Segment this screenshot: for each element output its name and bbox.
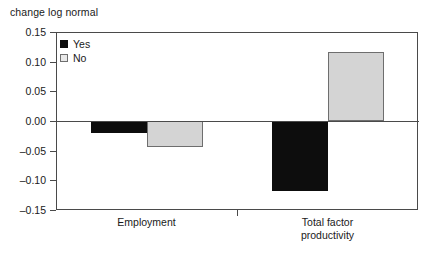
y-tick xyxy=(50,91,56,92)
y-tick xyxy=(50,210,56,211)
x-category-label-line: Employment xyxy=(56,216,237,229)
legend-swatch-yes xyxy=(60,40,68,48)
x-category-label-line: productivity xyxy=(237,229,418,242)
bar-yes xyxy=(272,121,328,191)
y-tick-label-text: 0.00 xyxy=(4,116,46,126)
y-tick xyxy=(50,32,56,33)
bar-chart: change log normal 0.150.100.050.00–0.05–… xyxy=(0,0,431,256)
x-category-label: Employment xyxy=(56,216,237,229)
legend-label-yes: Yes xyxy=(73,39,90,49)
legend-item-no: No xyxy=(60,52,90,64)
y-axis-title: change log normal xyxy=(10,6,98,18)
x-category-label-line: Total factor xyxy=(237,216,418,229)
y-tick-label-text: 0.05 xyxy=(4,86,46,96)
y-tick xyxy=(50,151,56,152)
y-tick xyxy=(50,62,56,63)
legend: Yes No xyxy=(60,38,90,66)
legend-item-yes: Yes xyxy=(60,38,90,50)
y-tick-label-text: 0.10 xyxy=(4,57,46,67)
legend-swatch-no xyxy=(60,54,68,62)
bar-no xyxy=(147,121,203,147)
legend-label-no: No xyxy=(73,53,86,63)
y-tick-label-text: –0.15 xyxy=(4,205,46,215)
bar-no xyxy=(328,52,384,121)
y-tick-label-text: –0.05 xyxy=(4,146,46,156)
bar-yes xyxy=(91,121,147,133)
x-category-label: Total factorproductivity xyxy=(237,216,418,241)
y-tick-label-text: 0.15 xyxy=(4,27,46,37)
y-tick-label-text: –0.10 xyxy=(4,175,46,185)
zero-baseline xyxy=(56,121,419,122)
y-tick xyxy=(50,180,56,181)
